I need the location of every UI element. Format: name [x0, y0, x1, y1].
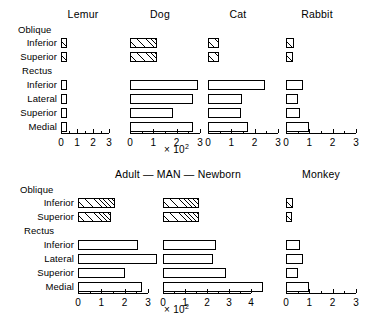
axis-exponent-row1: × 102 [164, 143, 189, 155]
bar-lemur-rectus_superior [61, 108, 67, 118]
axis-exponent-sup: 2 [185, 143, 189, 150]
bar-lemur-rectus_lateral [61, 94, 67, 104]
x-tick-major [200, 129, 201, 133]
x-tick-minor [243, 131, 244, 134]
category-label-rectus-inferior-row1: Inferior [0, 80, 57, 90]
x-tick-label: 0 [280, 137, 292, 148]
bar-newborn-oblique_inferior [163, 198, 199, 208]
bar-dog-oblique_superior [130, 52, 157, 62]
bar-adult-rectus_superior [78, 268, 125, 278]
category-label-rectus-medial-row2: Medial [0, 282, 74, 292]
x-tick-major [153, 129, 154, 133]
bar-cat-oblique_inferior [208, 38, 219, 48]
x-tick-major [109, 129, 110, 133]
bar-dog-oblique_inferior [130, 38, 157, 48]
panel-title-monkey: Monkey [288, 168, 354, 180]
category-label-oblique-inferior-row2: Inferior [0, 198, 74, 208]
bar-adult-oblique_superior [78, 212, 111, 222]
x-tick-label: 1 [303, 297, 315, 308]
x-tick-minor [298, 291, 299, 294]
x-tick-label: 1 [225, 137, 237, 148]
panel-title-rabbit: Rabbit [284, 8, 350, 20]
x-tick-major [61, 129, 62, 133]
x-tick-label: 1 [303, 137, 315, 148]
bar-cat-rectus_inferior [208, 80, 265, 90]
bar-rabbit-oblique_inferior [286, 38, 294, 48]
x-axis-line [163, 293, 251, 294]
x-tick-minor [174, 291, 175, 294]
x-axis-line [78, 293, 148, 294]
x-tick-major [333, 289, 334, 293]
x-tick-minor [298, 131, 299, 134]
bar-newborn-rectus_lateral [163, 254, 213, 264]
bar-monkey-rectus_lateral [286, 254, 303, 264]
x-tick-label: 0 [124, 137, 136, 148]
group-label-rectus-row1: Rectus [22, 66, 52, 76]
x-tick-label: 2 [201, 297, 213, 308]
x-tick-label: 0 [280, 297, 292, 308]
x-tick-label: 0 [202, 137, 214, 148]
x-tick-minor [344, 131, 345, 134]
x-tick-label: 2 [119, 297, 131, 308]
bar-monkey-oblique_superior [286, 212, 292, 222]
bar-newborn-rectus_inferior [163, 240, 216, 250]
x-tick-major [231, 129, 232, 133]
category-label-rectus-lateral-row1: Lateral [0, 94, 57, 104]
x-tick-label: 1 [71, 137, 83, 148]
x-tick-minor [69, 131, 70, 134]
x-tick-minor [321, 291, 322, 294]
bar-adult-rectus_inferior [78, 240, 138, 250]
x-tick-label: 3 [142, 297, 154, 308]
group-label-rectus-row2: Rectus [24, 226, 54, 236]
bar-cat-rectus_superior [208, 108, 241, 118]
axis-exponent-sup: 2 [185, 303, 189, 310]
group-label-oblique-row1: Oblique [18, 25, 51, 35]
bar-rabbit-rectus_lateral [286, 94, 298, 104]
bar-cat-rectus_lateral [208, 94, 242, 104]
x-tick-major [255, 129, 256, 133]
x-tick-major [77, 129, 78, 133]
x-tick-minor [220, 131, 221, 134]
x-tick-major [278, 129, 279, 133]
x-tick-label: 3 [350, 137, 362, 148]
bar-adult-rectus_medial [78, 282, 142, 292]
x-tick-label: 2 [87, 137, 99, 148]
group-label-oblique-row2: Oblique [20, 185, 53, 195]
bar-cat-rectus_medial [208, 122, 248, 132]
panel-title-lemur: Lemur [48, 8, 118, 20]
x-tick-minor [113, 291, 114, 294]
x-tick-major [309, 289, 310, 293]
x-tick-major [78, 289, 79, 293]
x-tick-minor [85, 131, 86, 134]
x-tick-minor [218, 291, 219, 294]
bar-lemur-rectus_inferior [61, 80, 67, 90]
x-tick-major [125, 289, 126, 293]
bar-cat-oblique_superior [208, 52, 219, 62]
category-label-oblique-inferior-row1: Inferior [0, 38, 57, 48]
x-axis-line [286, 293, 356, 294]
category-label-rectus-inferior-row2: Inferior [0, 240, 74, 250]
x-tick-major [286, 129, 287, 133]
x-axis-line [130, 133, 200, 134]
bar-monkey-rectus_superior [286, 268, 298, 278]
x-tick-label: 3 [223, 297, 235, 308]
x-tick-major [101, 289, 102, 293]
bar-dog-rectus_lateral [130, 94, 193, 104]
x-tick-major [208, 129, 209, 133]
x-tick-major [309, 129, 310, 133]
figure-root: Lemur Dog Cat Rabbit Oblique Inferior Su… [0, 0, 367, 319]
category-label-oblique-superior-row2: Superior [0, 212, 74, 222]
axis-exponent-text: × 10 [164, 304, 185, 315]
x-tick-major [163, 289, 164, 293]
x-axis-line [61, 133, 109, 134]
x-tick-major [356, 289, 357, 293]
x-tick-label: 1 [95, 297, 107, 308]
x-tick-minor [196, 291, 197, 294]
bar-newborn-rectus_medial [163, 282, 263, 292]
x-tick-minor [101, 131, 102, 134]
bar-rabbit-oblique_superior [286, 52, 293, 62]
bar-adult-oblique_inferior [78, 198, 115, 208]
x-tick-minor [321, 131, 322, 134]
category-label-rectus-lateral-row2: Lateral [0, 254, 74, 264]
x-tick-label: 4 [245, 297, 257, 308]
